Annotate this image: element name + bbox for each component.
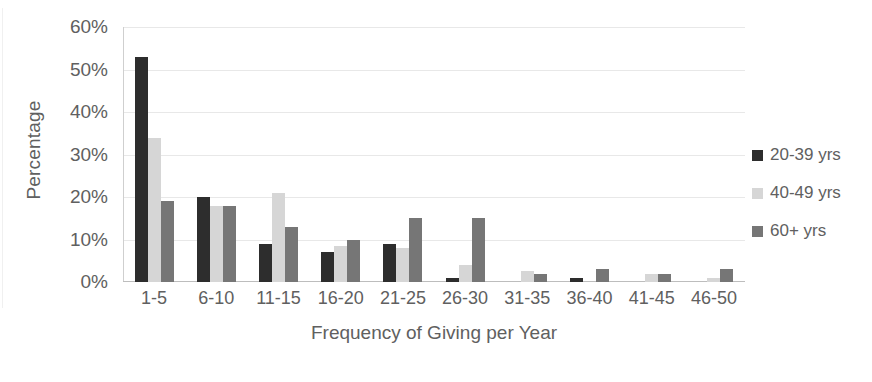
bar [472,218,485,282]
bar-group [185,27,247,282]
x-axis-tick-label: 41-45 [621,288,683,318]
bar [223,206,236,283]
bar-groups [123,27,745,282]
x-axis-tick-labels: 1-56-1011-1516-2021-2526-3031-3536-4041-… [123,288,745,318]
bar [570,278,583,282]
legend-swatch-icon [752,188,763,199]
bar [334,246,347,282]
y-axis-tick-label: 10% [70,229,108,251]
bar [534,274,547,283]
bar [446,278,459,282]
y-axis-title: Percentage [14,0,54,300]
legend-swatch-icon [752,226,763,237]
x-axis-tick-label: 16-20 [310,288,372,318]
y-axis-tick-labels: 0%10%20%30%40%50%60% [52,27,116,282]
legend-swatch-icon [752,150,763,161]
y-axis-tick-label: 20% [70,186,108,208]
x-axis-tick-label: 6-10 [185,288,247,318]
x-axis-title: Frequency of Giving per Year [123,322,745,344]
bar-group [123,27,185,282]
bar [658,274,671,283]
x-axis-tick-label: 26-30 [434,288,496,318]
bar [596,269,609,282]
y-axis-title-text: Percentage [23,100,45,199]
bar [321,252,334,282]
x-axis-tick-label: 31-35 [496,288,558,318]
x-axis-tick-label: 11-15 [247,288,309,318]
y-axis-tick-label: 60% [70,16,108,38]
bar-group [310,27,372,282]
bar [259,244,272,282]
legend-item: 20-39 yrs [752,136,868,174]
bar-group [372,27,434,282]
x-axis-tick-label: 1-5 [123,288,185,318]
bar [135,57,148,282]
bar-group [683,27,745,282]
bar [396,248,409,282]
y-axis-tick-label: 0% [81,271,108,293]
bar-group [247,27,309,282]
legend-item: 60+ yrs [752,212,868,250]
bar-group [496,27,558,282]
x-axis-tick-label: 21-25 [372,288,434,318]
bar-group [621,27,683,282]
bar [347,240,360,283]
legend-label: 40-49 yrs [770,183,841,203]
legend-label: 60+ yrs [770,221,826,241]
bar [409,218,422,282]
x-axis-tick-label: 36-40 [558,288,620,318]
x-axis-tick-label: 46-50 [683,288,745,318]
legend-item: 40-49 yrs [752,174,868,212]
bar-chart: Percentage 0%10%20%30%40%50%60% 1-56-101… [0,0,872,382]
bar [197,197,210,282]
plot-area [123,27,745,282]
bar [459,265,472,282]
scan-edge-artifact [2,8,3,308]
legend-label: 20-39 yrs [770,145,841,165]
bar [285,227,298,282]
y-axis-tick-label: 30% [70,144,108,166]
bar-group [434,27,496,282]
bar [383,244,396,282]
bar [272,193,285,282]
bar-group [558,27,620,282]
bar [720,269,733,282]
bar [707,278,720,282]
bar [521,271,534,282]
bar [148,138,161,283]
y-axis-tick-label: 50% [70,59,108,81]
bar [645,274,658,283]
chart-legend: 20-39 yrs40-49 yrs60+ yrs [752,136,868,250]
bar [210,206,223,283]
y-axis-tick-label: 40% [70,101,108,123]
bar [161,201,174,282]
